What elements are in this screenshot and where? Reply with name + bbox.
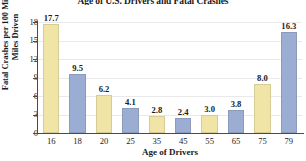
bar-slot: 2.8 — [144, 22, 170, 133]
bar-value-label: 16.3 — [276, 22, 302, 31]
bar-value-label: 2.8 — [144, 106, 170, 115]
bar-slot: 6.2 — [91, 22, 117, 133]
bar-slot: 4.1 — [117, 22, 143, 133]
bar-value-label: 8.0 — [249, 74, 275, 83]
chart-title: Age of U.S. Drivers and Fatal Crashes — [0, 0, 306, 5]
x-axis-title: Age of Drivers — [38, 147, 302, 158]
bar[interactable] — [149, 116, 165, 133]
bar-series: 17.79.56.24.12.82.43.03.88.016.3 — [38, 22, 302, 133]
x-axis-line — [33, 133, 304, 134]
bar-slot: 3.0 — [196, 22, 222, 133]
bar[interactable] — [281, 32, 297, 133]
bar-value-label: 3.0 — [196, 105, 222, 114]
bar-slot: 8.0 — [249, 22, 275, 133]
bar-slot: 16.3 — [276, 22, 302, 133]
bar-slot: 3.8 — [223, 22, 249, 133]
bar-value-label: 3.8 — [223, 100, 249, 109]
bar-slot: 2.4 — [170, 22, 196, 133]
bar[interactable] — [122, 108, 138, 133]
bar-slot: 9.5 — [64, 22, 90, 133]
bar[interactable] — [96, 95, 112, 133]
bar[interactable] — [175, 118, 191, 133]
bar[interactable] — [43, 24, 59, 133]
bar[interactable] — [254, 84, 270, 133]
bar[interactable] — [228, 110, 244, 133]
bar[interactable] — [201, 115, 217, 134]
bar-value-label: 9.5 — [64, 64, 90, 73]
bar-value-label: 6.2 — [91, 85, 117, 94]
bar-value-label: 4.1 — [117, 98, 143, 107]
bar-chart: Age of U.S. Drivers and Fatal Crashes Fa… — [0, 0, 306, 161]
bar-value-label: 2.4 — [170, 108, 196, 117]
bar[interactable] — [69, 74, 85, 133]
bar-value-label: 17.7 — [38, 14, 64, 23]
y-axis-ticks: 0369121518 — [0, 0, 38, 161]
bar-slot: 17.7 — [38, 22, 64, 133]
